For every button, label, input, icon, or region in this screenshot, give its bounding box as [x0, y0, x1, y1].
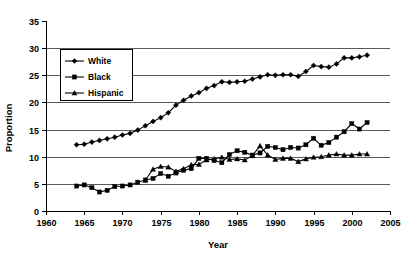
x-tick-label-1960: 1960: [36, 218, 56, 228]
y-tick-label-30: 30: [29, 44, 39, 54]
y-tick-label-25: 25: [29, 71, 39, 81]
square-marker-point: [334, 135, 338, 139]
square-marker-point: [311, 136, 315, 140]
square-marker-point: [136, 180, 140, 184]
x-tick-label-2000: 2000: [342, 218, 362, 228]
y-tick-label-20: 20: [29, 98, 39, 108]
square-marker-point: [243, 150, 247, 154]
x-tick-label-1975: 1975: [151, 218, 171, 228]
square-marker-point: [258, 151, 262, 155]
square-marker-point: [327, 141, 331, 145]
legend-label-black: Black: [88, 72, 111, 82]
x-tick-label-1970: 1970: [112, 218, 132, 228]
chart-legend: WhiteBlackHispanic: [61, 50, 133, 101]
square-marker-point: [281, 148, 285, 152]
y-tick-label-10: 10: [29, 153, 39, 163]
square-marker-point: [166, 174, 170, 178]
x-axis-title: Year: [208, 239, 228, 250]
square-marker-point: [357, 127, 361, 131]
y-tick-label-15: 15: [29, 126, 39, 136]
y-tick-label-35: 35: [29, 17, 39, 27]
square-marker-point: [74, 184, 78, 188]
square-marker-point: [82, 183, 86, 187]
chart-canvas: 05101520253035 1960196519701975198019851…: [0, 0, 410, 254]
square-marker-point: [365, 120, 369, 124]
x-tick-label-2005: 2005: [380, 218, 400, 228]
x-tick-label-1990: 1990: [265, 218, 285, 228]
square-marker-point: [319, 143, 323, 147]
square-marker-point: [97, 190, 101, 194]
square-marker-point: [304, 143, 308, 147]
square-marker-point: [220, 161, 224, 165]
legend-label-hispanic: Hispanic: [88, 88, 124, 98]
square-marker-point: [159, 171, 163, 175]
square-marker: [72, 75, 76, 79]
x-tick-label-1985: 1985: [227, 218, 247, 228]
square-marker-point: [197, 156, 201, 160]
square-marker-point: [350, 122, 354, 126]
x-tick-label-1980: 1980: [189, 218, 209, 228]
square-marker-point: [342, 130, 346, 134]
square-marker-point: [128, 183, 132, 187]
square-marker-point: [120, 184, 124, 188]
square-marker-point: [273, 145, 277, 149]
legend-label-white: White: [88, 56, 111, 66]
square-marker-point: [266, 144, 270, 148]
square-marker-point: [189, 167, 193, 171]
square-marker-point: [235, 149, 239, 153]
square-marker-point: [105, 188, 109, 192]
y-tick-label-5: 5: [34, 180, 39, 190]
square-marker-point: [90, 186, 94, 190]
line-chart-figure: 05101520253035 1960196519701975198019851…: [0, 0, 410, 254]
square-marker-point: [227, 152, 231, 156]
x-tick-label-1995: 1995: [304, 218, 324, 228]
y-tick-label-0: 0: [34, 207, 39, 217]
square-marker-point: [289, 145, 293, 149]
x-tick-label-1965: 1965: [74, 218, 94, 228]
square-marker-point: [113, 184, 117, 188]
square-marker-point: [296, 146, 300, 150]
y-axis-title: Proportion: [3, 104, 14, 153]
square-marker-point: [151, 176, 155, 180]
